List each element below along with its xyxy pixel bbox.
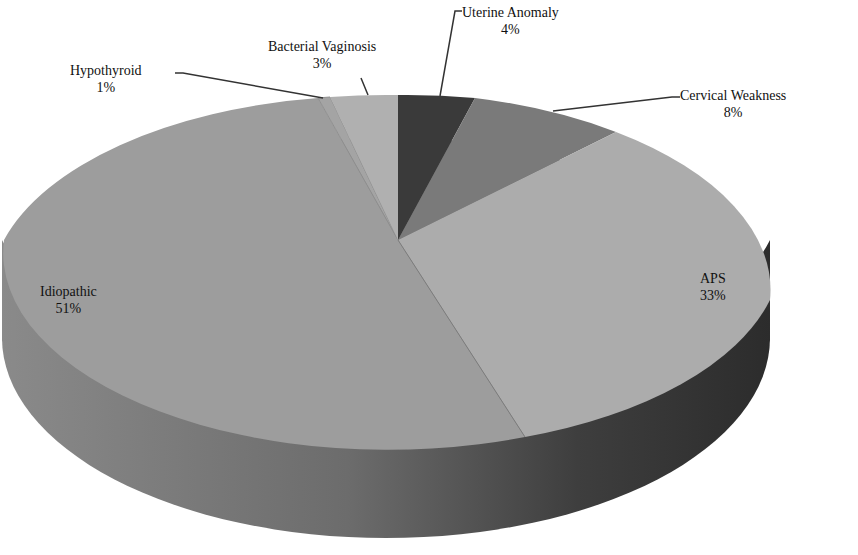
leader-hypothyroid xyxy=(175,73,323,98)
label-hypothyroid-name: Hypothyroid xyxy=(70,62,142,79)
label-cervical-weakness: Cervical Weakness 8% xyxy=(680,87,786,121)
label-idiopathic-pct: 51% xyxy=(40,300,97,317)
label-hypothyroid-pct: 1% xyxy=(70,79,142,96)
label-bacterial-vaginosis: Bacterial Vaginosis 3% xyxy=(268,38,376,72)
label-idiopathic: Idiopathic 51% xyxy=(40,283,97,317)
label-idiopathic-name: Idiopathic xyxy=(40,283,97,300)
label-bacterial-pct: 3% xyxy=(268,55,376,72)
label-bacterial-name: Bacterial Vaginosis xyxy=(268,38,376,55)
label-cervical-name: Cervical Weakness xyxy=(680,87,786,104)
label-aps-pct: 33% xyxy=(700,287,726,304)
leader-bacterial xyxy=(361,78,368,95)
label-cervical-pct: 8% xyxy=(680,104,786,121)
label-aps-name: APS xyxy=(700,270,726,287)
leader-uterine xyxy=(440,11,462,96)
label-hypothyroid: Hypothyroid 1% xyxy=(70,62,142,96)
label-aps: APS 33% xyxy=(700,270,726,304)
label-uterine-anomaly: Uterine Anomaly 4% xyxy=(462,4,559,38)
label-uterine-pct: 4% xyxy=(462,21,559,38)
label-uterine-name: Uterine Anomaly xyxy=(462,4,559,21)
leader-cervical xyxy=(553,97,680,111)
